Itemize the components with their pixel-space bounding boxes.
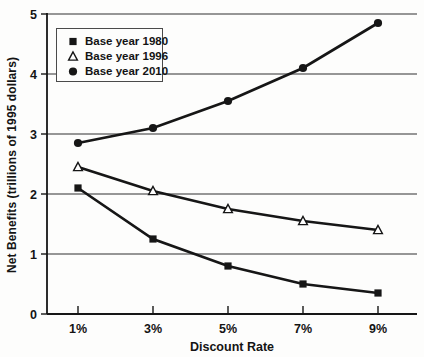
x-axis-title: Discount Rate	[40, 340, 424, 354]
open-triangle-icon	[67, 50, 79, 62]
y-axis-title: Net Benefits (trillions of 1995 dollars)	[5, 15, 19, 315]
filled-circle-icon	[67, 65, 79, 77]
filled-square-glyph	[67, 35, 79, 47]
x-tick-label: 3%	[144, 322, 162, 336]
y-tick-label: 4	[30, 68, 37, 82]
filled-circle-glyph	[67, 65, 79, 77]
open-triangle-marker	[69, 51, 78, 59]
x-tick-label: 7%	[294, 322, 312, 336]
legend: Base year 1980 Base year 1996 Base year …	[56, 28, 163, 82]
filled-square-marker	[149, 235, 156, 242]
legend-item-base-year-1980: Base year 1980	[67, 33, 156, 48]
legend-label: Base year 1980	[85, 35, 168, 47]
legend-label: Base year 1996	[85, 50, 168, 62]
y-tick-label: 1	[30, 248, 37, 262]
series-line	[78, 167, 378, 230]
filled-circle-marker	[69, 67, 77, 75]
filled-square-marker	[69, 37, 76, 44]
open-triangle-marker	[74, 162, 83, 170]
x-tick-label: 9%	[369, 322, 387, 336]
filled-square-icon	[67, 35, 79, 47]
y-tick-label: 0	[30, 308, 37, 322]
open-triangle-glyph	[67, 50, 79, 62]
filled-circle-marker	[374, 19, 382, 27]
filled-square-marker	[74, 184, 81, 191]
y-tick-label: 3	[30, 128, 37, 142]
filled-circle-marker	[224, 97, 232, 105]
filled-circle-marker	[299, 64, 307, 72]
chart-figure: 0123451%3%5%7%9% Net Benefits (trillions…	[0, 0, 424, 357]
legend-label: Base year 2010	[85, 65, 168, 77]
x-tick-label: 1%	[69, 322, 87, 336]
x-tick-label: 5%	[219, 322, 237, 336]
series-base-year-1980	[74, 184, 381, 296]
filled-square-marker	[299, 280, 306, 287]
series-base-year-1996	[74, 162, 383, 233]
y-tick-label: 2	[30, 188, 37, 202]
y-tick-label: 5	[30, 8, 37, 22]
filled-circle-marker	[74, 139, 82, 147]
legend-item-base-year-2010: Base year 2010	[67, 63, 156, 78]
filled-square-marker	[374, 289, 381, 296]
filled-circle-marker	[149, 124, 157, 132]
legend-item-base-year-1996: Base year 1996	[67, 48, 156, 63]
filled-square-marker	[224, 262, 231, 269]
